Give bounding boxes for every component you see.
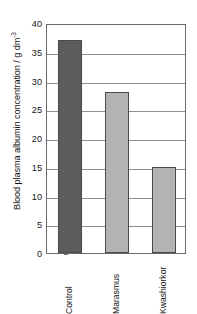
bar-marasmus [105, 92, 129, 253]
bars-layer [47, 25, 185, 253]
y-tick-label: 20 [22, 135, 42, 144]
bar-chart-figure: Blood plasma albumin concentration / g d… [0, 0, 197, 314]
y-tick-label: 10 [22, 192, 42, 201]
y-tick-label: 5 [22, 221, 42, 230]
plot-area [46, 24, 186, 254]
y-tick-label: 15 [22, 163, 42, 172]
x-category-control: Control [61, 254, 77, 314]
y-tick-label: 40 [22, 20, 42, 29]
y-tick-label: 25 [22, 106, 42, 115]
x-axis-category-labels: ControlMarasmusKwashiorkor [46, 254, 186, 314]
x-category-marasmus: Marasmus [108, 254, 124, 314]
x-category-label: Control [61, 254, 77, 314]
x-category-label: Kwashiorkor [155, 254, 171, 314]
x-category-kwashiorkor: Kwashiorkor [155, 254, 171, 314]
y-axis-title-text: Blood plasma albumin concentration / g d… [12, 38, 22, 210]
bar-control [58, 40, 82, 253]
x-category-label: Marasmus [108, 254, 124, 314]
y-tick-label: 30 [22, 77, 42, 86]
y-tick-label: 35 [22, 48, 42, 57]
y-tick-label: 0 [22, 250, 42, 259]
bar-kwashiorkor [152, 167, 176, 253]
y-axis-title-exponent: -3 [10, 32, 17, 38]
y-axis-tick-labels: 0510152025303540 [22, 24, 42, 254]
